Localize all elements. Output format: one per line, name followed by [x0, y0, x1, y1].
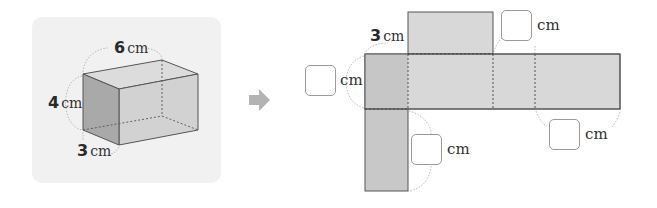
answer-box-bottom-right[interactable] — [549, 119, 580, 150]
answer-box-top-right[interactable] — [501, 10, 532, 41]
unit-label: cm — [447, 142, 470, 157]
answer-box-left-height[interactable] — [305, 65, 336, 96]
rectangular-prism — [66, 48, 199, 154]
width-label: 3cm — [77, 143, 111, 159]
answer-box-bottom-flap[interactable] — [411, 134, 442, 165]
unit-label: cm — [340, 73, 363, 88]
unit-label: cm — [537, 18, 560, 33]
net-given-label: 3cm — [370, 28, 404, 44]
right-arrow-icon — [249, 89, 270, 111]
unit-label: cm — [585, 127, 608, 142]
length-label: 6cm — [114, 40, 148, 56]
height-label: 4cm — [48, 95, 82, 111]
